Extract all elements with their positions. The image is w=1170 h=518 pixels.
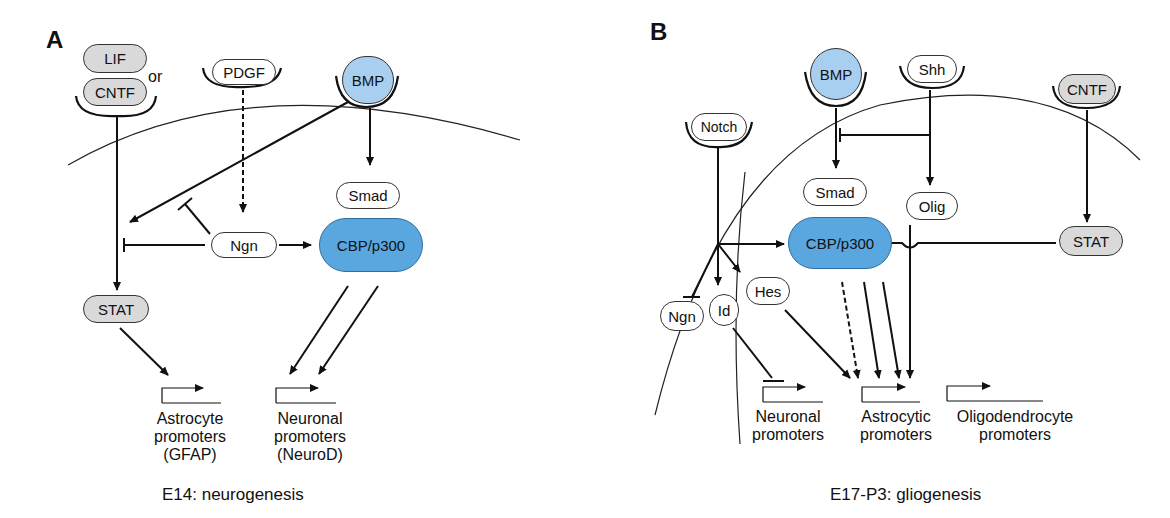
caption-a: E14: neurogenesis [162, 485, 304, 505]
node-cbp-p300-a: CBP/p300 [319, 218, 423, 272]
node-cntf-a: CNTF [83, 78, 147, 106]
promoter-neuronal-b: Neuronal promoters [738, 408, 838, 444]
node-bmp-b: BMP [810, 48, 862, 100]
node-ngn-b: Ngn [660, 301, 704, 331]
node-hes: Hes [746, 277, 790, 305]
caption-b: E17-P3: gliogenesis [830, 485, 981, 505]
node-smad-a: Smad [336, 182, 400, 209]
or-label: or [148, 68, 162, 86]
promoter-neuronal-a: Neuronal promoters (NeuroD) [265, 410, 355, 464]
promoter-astrocytic-b: Astrocytic promoters [846, 408, 946, 444]
node-stat-b: STAT [1059, 226, 1123, 256]
node-smad-b: Smad [803, 178, 867, 206]
panel-label-b: B [650, 18, 667, 46]
promoter-astrocyte-a: Astrocyte promoters (GFAP) [150, 410, 230, 464]
node-cntf-b: CNTF [1058, 74, 1116, 104]
promoter-oligodendrocyte-b: Oligodendrocyte promoters [955, 408, 1075, 444]
node-notch: Notch [691, 113, 747, 141]
node-cbp-p300-b: CBP/p300 [788, 217, 892, 269]
node-olig: Olig [906, 192, 958, 220]
node-stat-a: STAT [83, 295, 149, 323]
node-pdgf: PDGF [212, 59, 276, 85]
node-bmp-a: BMP [342, 56, 394, 104]
node-id: Id [709, 294, 739, 326]
node-lif: LIF [83, 44, 147, 73]
node-ngn-a: Ngn [211, 232, 277, 258]
panel-label-a: A [46, 26, 63, 54]
node-shh: Shh [907, 55, 957, 83]
